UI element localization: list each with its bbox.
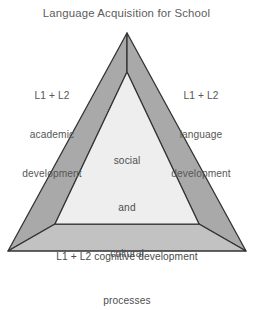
bottom-label-line-1: L1 + L2 cognitive development bbox=[47, 251, 207, 263]
right-corner-label: L1 + L2 language development bbox=[152, 63, 250, 207]
page-title: Language Acquisition for School bbox=[0, 7, 253, 20]
center-label-line-2: and bbox=[88, 200, 166, 216]
bottom-band-label: L1 + L2 cognitive development bbox=[47, 227, 207, 287]
left-label-line-1: L1 + L2 bbox=[4, 89, 100, 102]
left-label-line-2: academic bbox=[4, 128, 100, 141]
right-label-line-2: language bbox=[152, 128, 250, 141]
left-label-line-3: development bbox=[4, 167, 100, 180]
right-label-line-3: development bbox=[152, 167, 250, 180]
left-corner-label: L1 + L2 academic development bbox=[4, 63, 100, 207]
center-label-line-1: social bbox=[88, 153, 166, 169]
right-label-line-1: L1 + L2 bbox=[152, 89, 250, 102]
center-label-line-4: processes bbox=[88, 293, 166, 309]
